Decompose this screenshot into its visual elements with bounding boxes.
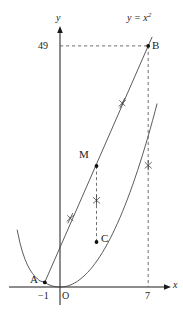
figure-canvas: y = x2 y x 49 B M C A −1 O 7	[0, 0, 183, 316]
point-label-C: C	[101, 233, 108, 244]
x-tick-label-seven: 7	[145, 291, 150, 301]
point-B	[146, 44, 150, 48]
y-tick-label-49: 49	[38, 41, 48, 51]
tick-mark-segment-MC	[93, 196, 99, 205]
curve-equation-prefix: y = x	[127, 12, 148, 23]
point-A	[43, 281, 47, 285]
y-axis	[57, 26, 63, 305]
point-C	[95, 240, 99, 244]
point-M	[95, 164, 99, 168]
parabola-curve	[17, 104, 157, 287]
point-label-M: M	[79, 149, 89, 160]
origin-label: O	[62, 291, 69, 301]
x-axis-arrow	[164, 284, 171, 290]
curve-equation-label: y = x2	[127, 13, 151, 23]
y-axis-label: y	[56, 13, 60, 23]
point-label-A: A	[30, 274, 38, 285]
tick-mark-segment-x7-vertical	[145, 161, 151, 170]
x-axis-label: x	[173, 280, 177, 290]
point-label-B: B	[152, 40, 159, 51]
x-axis	[9, 284, 171, 290]
y-axis-arrow	[57, 26, 63, 33]
curve-equation-exponent: 2	[148, 11, 152, 19]
x-tick-label-neg-one: −1	[38, 291, 49, 301]
